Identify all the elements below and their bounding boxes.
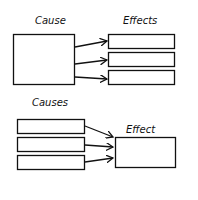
cause-box xyxy=(14,35,75,85)
arrow-2 xyxy=(85,145,113,147)
cause-label: Cause xyxy=(35,15,66,26)
cause-box-2 xyxy=(18,138,85,152)
effects-label: Effects xyxy=(123,15,157,26)
effect-box xyxy=(116,138,176,168)
effect-box-2 xyxy=(109,53,175,67)
cause-box-3 xyxy=(18,156,85,170)
effect-box-3 xyxy=(109,71,175,85)
causes-label: Causes xyxy=(32,97,68,108)
effect-label: Effect xyxy=(126,124,155,135)
arrow-3 xyxy=(75,77,107,79)
one-cause-many-effects xyxy=(14,35,175,85)
cause-box-1 xyxy=(18,120,85,134)
diagram-canvas xyxy=(0,0,198,200)
arrow-2 xyxy=(75,60,107,64)
arrow-1 xyxy=(75,41,107,47)
arrow-3 xyxy=(85,158,113,162)
effect-box-1 xyxy=(109,35,175,49)
arrow-1 xyxy=(85,126,113,137)
